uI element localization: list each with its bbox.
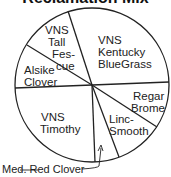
label-linc: Linc-Smooth (109, 113, 149, 137)
label-timothy: VNSTimothy (40, 111, 80, 135)
label-alsike: AlsikeClover (24, 64, 57, 88)
label-med-red-clover: Med. Red Clover (2, 163, 85, 175)
label-regar: RegarBrome (131, 90, 165, 114)
pie-chart (0, 0, 171, 177)
label-kbg: VNSKentuckyBlueGrass (98, 34, 152, 70)
